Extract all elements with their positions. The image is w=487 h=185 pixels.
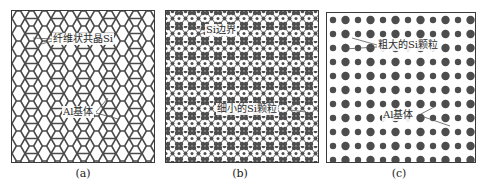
caption-a: (a) (63, 167, 103, 180)
panel-b (165, 10, 319, 163)
caption-c: (c) (379, 167, 419, 180)
label-si-boundary: Si边界 (205, 24, 237, 36)
panel-c (326, 12, 476, 163)
label-coarse-si-particles: 粗大的Si颗粒 (377, 39, 439, 51)
label-al-matrix-a: Al基体 (62, 106, 94, 118)
label-al-matrix-c: Al基体 (382, 109, 414, 121)
fine-particle-pattern (166, 11, 319, 163)
coarse-particle-pattern (327, 13, 476, 163)
label-fibrous-eutectic-si: 纤维状共晶Si (52, 33, 114, 45)
caption-b: (b) (220, 167, 260, 180)
label-fine-si-particles: 细小的Si颗粒 (216, 103, 278, 115)
